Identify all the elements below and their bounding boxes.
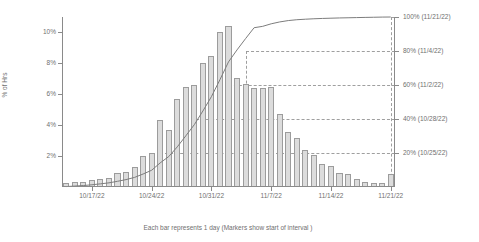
y-axis-tick-label: 4% <box>47 122 56 129</box>
secondary-axis-tick-label: 60% (11/2/22) <box>403 82 443 89</box>
secondary-axis-tick <box>395 119 399 120</box>
x-axis-tick <box>391 187 392 191</box>
x-axis-tick <box>331 187 332 191</box>
y-axis-tick <box>58 156 62 157</box>
y-axis-tick <box>58 94 62 95</box>
x-axis-tick-label: 10/24/22 <box>139 193 164 200</box>
x-axis-tick <box>271 187 272 191</box>
x-axis-tick-label: 10/31/22 <box>199 193 224 200</box>
secondary-axis-tick-label: 80% (11/4/22) <box>403 48 443 55</box>
cumulative-curve-path <box>66 17 390 187</box>
secondary-axis-tick <box>395 153 399 154</box>
secondary-axis-tick-label: 100% (11/21/22) <box>403 14 451 21</box>
secondary-axis-tick <box>395 51 399 52</box>
x-axis-line <box>62 186 395 187</box>
secondary-axis-tick-label: 20% (10/25/22) <box>403 150 447 157</box>
y-axis-tick <box>58 63 62 64</box>
plot-area: 2%4%6%8%10%20% (10/25/22)40% (10/28/22)6… <box>62 17 395 187</box>
secondary-axis-tick-label: 40% (10/28/22) <box>403 116 447 123</box>
chart-caption: Each bar represents 1 day (Markers show … <box>143 224 312 231</box>
x-axis-tick-label: 11/21/22 <box>378 193 403 200</box>
x-axis-tick-label: 11/14/22 <box>319 193 344 200</box>
y-axis-tick-label: 10% <box>43 29 56 36</box>
secondary-axis-tick <box>395 17 399 18</box>
y-axis-tick-label: 2% <box>47 153 56 160</box>
x-axis-tick <box>211 187 212 191</box>
y-axis-tick-label: 6% <box>47 91 56 98</box>
chart-container: % of Hrs 2%4%6%8%10%20% (10/25/22)40% (1… <box>0 0 479 242</box>
y-axis-tick-label: 8% <box>47 60 56 67</box>
x-axis-tick <box>92 187 93 191</box>
x-axis-tick <box>152 187 153 191</box>
y-axis-title: % of Hrs <box>1 73 8 98</box>
secondary-axis-tick <box>395 85 399 86</box>
x-axis-tick-label: 11/7/22 <box>261 193 282 200</box>
y-axis-tick <box>58 32 62 33</box>
cumulative-curve <box>62 17 395 187</box>
y-axis-right-line <box>394 17 395 187</box>
y-axis-left-line <box>62 17 63 187</box>
y-axis-tick <box>58 125 62 126</box>
x-axis-tick-label: 10/17/22 <box>79 193 104 200</box>
